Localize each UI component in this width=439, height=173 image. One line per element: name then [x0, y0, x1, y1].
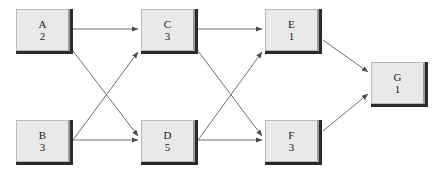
edge-e-to-g — [323, 40, 368, 72]
node-g-duration: 1 — [395, 83, 401, 96]
node-b[interactable]: B 3 — [16, 120, 70, 162]
node-e-label: E — [288, 18, 295, 30]
edge-b-to-c — [73, 52, 138, 140]
node-c-duration: 3 — [165, 30, 171, 43]
node-d-duration: 5 — [165, 141, 171, 154]
node-g[interactable]: G 1 — [371, 62, 425, 104]
edge-d-to-e — [198, 52, 262, 140]
node-f-duration: 3 — [289, 141, 295, 154]
edge-a-to-d — [73, 51, 138, 136]
node-f[interactable]: F 3 — [265, 120, 319, 162]
node-g-label: G — [393, 71, 401, 83]
node-b-label: B — [39, 129, 47, 141]
node-e[interactable]: E 1 — [265, 9, 319, 51]
node-f-label: F — [288, 129, 294, 141]
edge-f-to-g — [323, 94, 368, 131]
node-d[interactable]: D 5 — [141, 120, 195, 162]
node-a-duration: 2 — [40, 30, 46, 43]
node-a-label: A — [38, 18, 46, 30]
edge-c-to-f — [198, 51, 262, 136]
node-e-duration: 1 — [289, 30, 295, 43]
node-a[interactable]: A 2 — [16, 9, 70, 51]
network-diagram: A 2 B 3 C 3 D 5 E 1 F 3 G 1 — [0, 0, 439, 173]
node-c-label: C — [164, 18, 172, 30]
node-d-label: D — [163, 129, 171, 141]
node-c[interactable]: C 3 — [141, 9, 195, 51]
edges-group — [73, 29, 368, 140]
node-b-duration: 3 — [40, 141, 46, 154]
